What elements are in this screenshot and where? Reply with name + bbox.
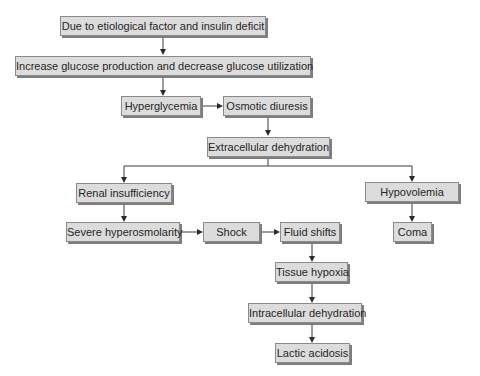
edge-hypovolemia-to-coma [409, 201, 415, 222]
edge-cause-to-glucose [160, 36, 166, 55]
node-shock: Shock [203, 222, 260, 242]
node-lactic-acidosis: Lactic acidosis [275, 343, 350, 363]
node-fluid-shifts: Fluid shifts [280, 222, 340, 242]
node-hypovolemia: Hypovolemia [365, 182, 459, 202]
node-renal-insufficiency: Renal insufficiency [76, 183, 172, 203]
edge-renal-insufficiency-to-severe-hyperosmolarity [121, 202, 127, 222]
edge-shock-to-fluid-shifts [261, 229, 280, 235]
flowchart: Due to etiological factor and insulin de… [0, 0, 480, 376]
node-cause: Due to etiological factor and insulin de… [60, 16, 266, 36]
node-coma: Coma [393, 222, 432, 242]
node-tissue-hypoxia: Tissue hypoxia [275, 262, 348, 282]
edge-extracellular-dehydration-branch [121, 158, 415, 183]
edge-glucose-to-hyperglycemia [160, 76, 166, 96]
node-glucose-production: Increase glucose production and decrease… [15, 56, 311, 76]
edge-severe-hyperosmolarity-to-shock [182, 229, 203, 235]
edge-tissue-hypoxia-to-intracellular-dehydration [309, 282, 315, 303]
node-extracellular-dehydration: Extracellular dehydration [207, 137, 330, 157]
node-hyperglycemia: Hyperglycemia [121, 96, 201, 116]
edge-hyperglycemia-to-osmotic-diuresis [202, 103, 223, 109]
node-osmotic-diuresis: Osmotic diuresis [223, 96, 311, 116]
edge-fluid-shifts-to-tissue-hypoxia [309, 242, 315, 262]
edge-osmotic-diuresis-to-extracellular-dehydration [265, 117, 271, 136]
node-intracellular-dehydration: Intracellular dehydration [248, 303, 362, 323]
node-severe-hyperosmolarity: Severe hyperosmolarity [66, 222, 180, 242]
edge-intracellular-dehydration-to-lactic-acidosis [309, 323, 315, 343]
